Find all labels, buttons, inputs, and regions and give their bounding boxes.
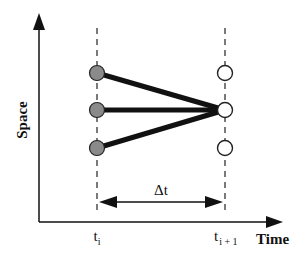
y-axis	[33, 13, 45, 222]
x-axis-label: Time	[256, 231, 289, 247]
connection-top	[97, 73, 225, 110]
nodes-t-i-plus-1	[218, 66, 233, 156]
t-i-label: ti	[94, 228, 101, 247]
connections	[97, 73, 225, 148]
node-t-i-plus-1-top	[218, 66, 233, 81]
arrow-left-icon	[99, 196, 117, 208]
space-time-diagram: Δt ti ti + 1 Time Space	[0, 0, 305, 255]
x-axis-arrow-icon	[266, 216, 283, 228]
node-t-i-bottom	[90, 141, 105, 156]
x-axis	[39, 216, 283, 228]
y-axis-label: Space	[14, 101, 30, 139]
nodes-t-i	[90, 66, 105, 156]
node-t-i-plus-1-middle	[218, 103, 233, 118]
t-i-plus-1-label: ti + 1	[214, 228, 238, 247]
node-t-i-top	[90, 66, 105, 81]
node-t-i-plus-1-bottom	[218, 141, 233, 156]
y-axis-arrow-icon	[33, 13, 45, 30]
arrow-right-icon	[205, 196, 223, 208]
node-t-i-middle	[90, 103, 105, 118]
connection-bottom	[97, 110, 225, 148]
delta-t-label: Δt	[154, 182, 169, 198]
